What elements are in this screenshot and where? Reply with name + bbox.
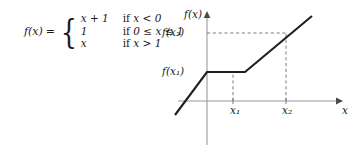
if-keyword-3: if xyxy=(123,37,130,49)
if-keyword-2: if xyxy=(123,25,130,37)
function-curve xyxy=(175,16,312,115)
x-tick-label-x2: x₂ xyxy=(282,104,292,116)
left-brace-glyph: { xyxy=(61,16,77,47)
x-axis-label: x xyxy=(342,104,348,116)
y-axis-arrowhead xyxy=(204,11,211,18)
y-tick-label-fx1: f(x₁) xyxy=(162,65,184,77)
y-tick-label-fx2: f(x₂) xyxy=(162,26,184,38)
condition-text-1: x < 0 xyxy=(133,12,161,24)
function-head: f(x) xyxy=(24,25,45,38)
y-axis-label: f(x) xyxy=(184,8,202,20)
case-value-2: 1 xyxy=(81,26,121,38)
case-value-1: x + 1 xyxy=(81,13,121,25)
if-keyword-1: if xyxy=(123,12,130,24)
x-tick-label-x1: x₁ xyxy=(230,104,240,116)
graph-svg xyxy=(160,0,364,153)
case-value-3: x xyxy=(81,38,121,50)
figure-container: f(x) = { x + 1 if x < 0 1 if 0 ≤ x ≤ 1 x… xyxy=(0,0,364,153)
function-graph: f(x) f(x₂) f(x₁) x₁ x₂ x xyxy=(160,0,364,153)
equals-sign: = xyxy=(45,25,58,38)
condition-text-3: x > 1 xyxy=(133,37,161,49)
